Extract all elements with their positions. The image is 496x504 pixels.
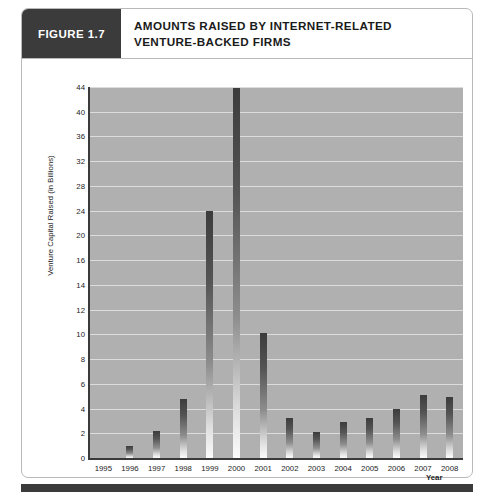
bar bbox=[366, 418, 373, 458]
gridline bbox=[90, 334, 463, 335]
y-axis-tick-label: 16 bbox=[59, 256, 85, 265]
x-axis-tick-label: 2008 bbox=[433, 464, 467, 473]
y-axis-tick-label: 6 bbox=[59, 379, 85, 388]
gridline bbox=[90, 433, 463, 434]
figure-number-tab: FIGURE 1.7 bbox=[22, 9, 121, 58]
y-axis-tick-label: 8 bbox=[59, 355, 85, 364]
gridline bbox=[90, 359, 463, 360]
gridline bbox=[90, 235, 463, 236]
plot-area bbox=[88, 87, 463, 460]
gridline bbox=[90, 161, 463, 162]
y-axis-tick-label: 0 bbox=[59, 454, 85, 463]
y-axis-tick-label: 10 bbox=[59, 330, 85, 339]
figure-container: FIGURE 1.7 AMOUNTS RAISED BY INTERNET-RE… bbox=[21, 8, 473, 478]
bar bbox=[286, 418, 293, 458]
bar bbox=[260, 333, 267, 458]
gridline bbox=[90, 409, 463, 410]
gridline bbox=[90, 310, 463, 311]
y-axis-tick-label: 32 bbox=[59, 157, 85, 166]
y-axis-tick-label: 44 bbox=[59, 83, 85, 92]
bar bbox=[313, 432, 320, 458]
gridline bbox=[90, 186, 463, 187]
y-axis-title: Venture Capital Raised (in Billions) bbox=[46, 141, 55, 291]
y-axis-tick-label: 40 bbox=[59, 107, 85, 116]
figure-title: AMOUNTS RAISED BY INTERNET-RELATED VENTU… bbox=[121, 9, 473, 58]
x-axis-tick-labels: 1995199619971998199920002001200220032004… bbox=[90, 460, 463, 476]
gridline bbox=[90, 285, 463, 286]
y-axis-tick-label: 20 bbox=[59, 231, 85, 240]
y-axis-tick-label: 4 bbox=[59, 404, 85, 413]
y-axis-tick-label: 28 bbox=[59, 181, 85, 190]
bar bbox=[420, 395, 427, 458]
y-axis-tick-label: 2 bbox=[59, 429, 85, 438]
bar bbox=[180, 399, 187, 458]
figure-title-line-1: AMOUNTS RAISED BY INTERNET-RELATED bbox=[134, 18, 473, 34]
bar bbox=[340, 422, 347, 458]
bar bbox=[153, 431, 160, 458]
figure-title-line-2: VENTURE-BACKED FIRMS bbox=[134, 34, 473, 50]
gridline bbox=[90, 384, 463, 385]
gridline bbox=[90, 211, 463, 212]
bar bbox=[233, 88, 240, 458]
bar bbox=[446, 397, 453, 458]
y-axis-tick-label: 12 bbox=[59, 305, 85, 314]
bar bbox=[393, 409, 400, 458]
y-axis-tick-labels: 024681012141620242832364044 bbox=[55, 87, 85, 458]
y-axis-tick-label: 14 bbox=[59, 280, 85, 289]
y-axis-tick-label: 24 bbox=[59, 206, 85, 215]
gridline bbox=[90, 260, 463, 261]
gridline bbox=[90, 136, 463, 137]
bar bbox=[206, 211, 213, 458]
gridline bbox=[90, 112, 463, 113]
gridline bbox=[90, 87, 463, 88]
bottom-divider bbox=[21, 484, 473, 492]
figure-number-label: FIGURE 1.7 bbox=[38, 28, 105, 40]
figure-header: FIGURE 1.7 AMOUNTS RAISED BY INTERNET-RE… bbox=[22, 9, 473, 59]
chart-region: Venture Capital Raised (in Billions) 024… bbox=[22, 59, 473, 478]
y-axis-tick-label: 36 bbox=[59, 132, 85, 141]
x-axis-title: Year bbox=[426, 473, 442, 482]
bar bbox=[126, 446, 133, 458]
